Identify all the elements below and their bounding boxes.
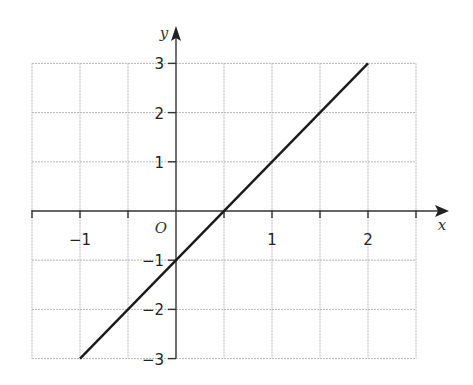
y-tick-label: −1 — [142, 252, 164, 270]
y-tick-label: 1 — [154, 154, 164, 172]
x-axis-label: x — [438, 216, 447, 234]
y-tick-label: −2 — [142, 301, 164, 319]
x-tick-label: −1 — [69, 231, 91, 249]
y-axis-label: y — [159, 24, 169, 42]
axes — [32, 26, 449, 359]
tick-labels: −112321−1−2−3Oxy — [69, 24, 447, 369]
x-tick-label: 2 — [363, 231, 373, 249]
origin-label: O — [155, 219, 167, 237]
y-tick-label: −3 — [142, 351, 164, 369]
y-tick-label: 2 — [154, 105, 164, 123]
x-tick-label: 1 — [267, 231, 277, 249]
line-chart: −112321−1−2−3Oxy — [0, 0, 473, 385]
y-tick-label: 3 — [154, 55, 164, 73]
